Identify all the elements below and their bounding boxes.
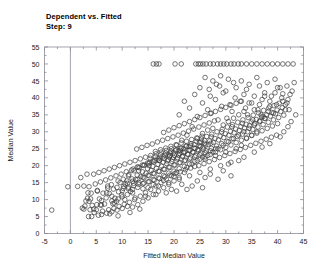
data-points bbox=[49, 62, 298, 219]
x-tick-label: -5 bbox=[41, 238, 47, 245]
y-tick-label: 25 bbox=[32, 145, 40, 152]
x-tick-label: 25 bbox=[196, 238, 204, 245]
y-tick-label: 40 bbox=[32, 94, 40, 101]
y-tick-label: 15 bbox=[32, 179, 40, 186]
x-tick-label: 0 bbox=[68, 238, 72, 245]
axis-ticks bbox=[45, 47, 304, 234]
y-tick-label: 55 bbox=[32, 44, 40, 51]
y-tick-label: 20 bbox=[32, 162, 40, 169]
x-tick-label: 5 bbox=[94, 238, 98, 245]
x-tick-label: 20 bbox=[170, 238, 178, 245]
x-tick-label: 45 bbox=[300, 238, 308, 245]
chart-container: Dependent vs. Fitted Step: 9 -5051015202… bbox=[0, 0, 326, 267]
x-tick-label: 30 bbox=[222, 238, 230, 245]
y-tick-label: 45 bbox=[32, 78, 40, 85]
y-tick-label: 0 bbox=[36, 230, 40, 237]
y-tick-label: 30 bbox=[32, 128, 40, 135]
x-axis-label: Fitted Median Value bbox=[143, 252, 205, 259]
x-tick-label: 15 bbox=[144, 238, 152, 245]
x-tick-label: 10 bbox=[118, 238, 126, 245]
y-tick-label: 5 bbox=[36, 213, 40, 220]
y-tick-label: 10 bbox=[32, 196, 40, 203]
y-tick-label: 50 bbox=[32, 61, 40, 68]
x-tick-label: 35 bbox=[248, 238, 256, 245]
y-tick-label: 35 bbox=[32, 111, 40, 118]
plot-frame bbox=[45, 47, 304, 234]
y-axis-label: Median Value bbox=[7, 119, 14, 161]
x-tick-label: 40 bbox=[274, 238, 282, 245]
scatter-plot: -505101520253035404505101520253035404550… bbox=[0, 0, 326, 267]
